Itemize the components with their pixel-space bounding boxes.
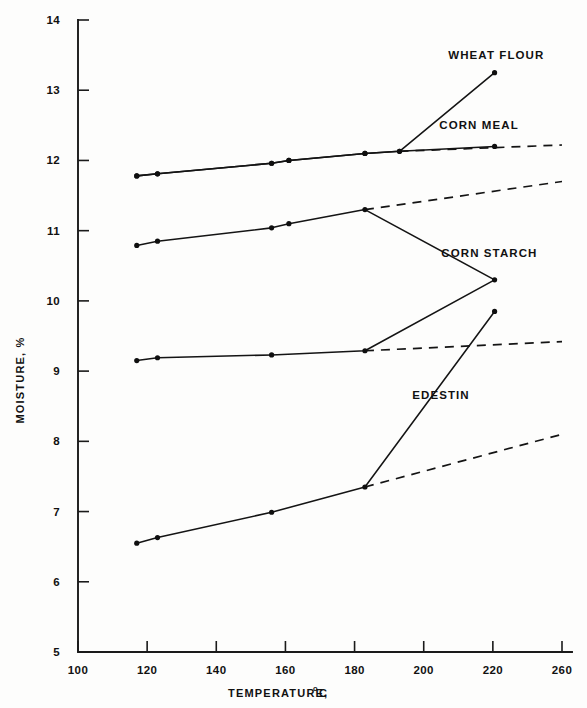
x-axis-tick-label: 220 [483, 664, 503, 676]
x-axis-tick-label: 260 [552, 664, 572, 676]
data-point-marker [155, 239, 160, 244]
series-label: CORN STARCH [441, 247, 537, 259]
data-point-marker [155, 171, 160, 176]
y-axis-tick-label: 11 [47, 225, 60, 237]
chart-series-lines [137, 73, 562, 543]
x-axis-tick-label: 140 [206, 664, 226, 676]
y-axis-tick-label: 9 [53, 365, 60, 377]
x-axis-title-degree-icon: o [313, 684, 318, 693]
data-point-marker [269, 352, 274, 357]
chart-axes [78, 20, 572, 652]
series-line-solid [137, 280, 495, 361]
series-line-dashed [365, 434, 562, 487]
data-point-marker [155, 355, 160, 360]
x-axis-tick-label: 200 [414, 664, 434, 676]
data-point-marker [492, 70, 497, 75]
x-axis-title: TEMPERATURE, o C [228, 684, 328, 699]
data-point-marker [362, 348, 367, 353]
chart-ticks [78, 20, 562, 652]
chart-figure: 567891011121314 100120140160180200220260… [0, 0, 587, 708]
x-axis-title-unit-text: C [319, 687, 328, 699]
x-axis-tick-labels: 100120140160180200220260 [68, 664, 572, 676]
data-point-marker [492, 144, 497, 149]
data-point-marker [134, 541, 139, 546]
series-line-dashed [400, 145, 562, 151]
y-axis-tick-label: 13 [46, 84, 60, 96]
data-point-marker [492, 277, 497, 282]
data-point-marker [134, 358, 139, 363]
y-axis-tick-label: 14 [46, 14, 60, 26]
data-point-marker [362, 151, 367, 156]
data-point-marker [362, 484, 367, 489]
data-point-marker [362, 207, 367, 212]
data-point-marker [269, 225, 274, 230]
y-axis-tick-label: 10 [46, 295, 60, 307]
series-label: CORN MEAL [439, 119, 519, 131]
y-axis-tick-label: 7 [53, 506, 60, 518]
y-axis-tick-label: 5 [53, 646, 60, 658]
x-axis-tick-label: 100 [68, 664, 88, 676]
axis-spines [78, 20, 572, 652]
series-line-solid [137, 210, 495, 280]
x-axis-tick-label: 180 [344, 664, 364, 676]
series-label: EDESTIN [412, 389, 470, 401]
y-axis-tick-labels: 567891011121314 [46, 14, 60, 658]
data-point-marker [492, 309, 497, 314]
data-point-marker [134, 173, 139, 178]
x-axis-tick-label: 160 [275, 664, 295, 676]
series-label: WHEAT FLOUR [448, 49, 544, 61]
data-point-marker [397, 149, 402, 154]
data-point-marker [286, 158, 291, 163]
y-axis-tick-label: 12 [46, 154, 60, 166]
data-point-marker [286, 221, 291, 226]
data-point-marker [134, 243, 139, 248]
data-point-marker [155, 535, 160, 540]
y-axis-tick-label: 6 [53, 576, 60, 588]
y-axis-title: MOISTURE, % [14, 336, 26, 423]
series-line-solid [137, 146, 495, 175]
data-point-marker [269, 510, 274, 515]
series-line-dashed [365, 182, 562, 210]
data-point-marker [269, 161, 274, 166]
x-axis-tick-label: 120 [137, 664, 157, 676]
y-axis-tick-label: 8 [53, 435, 60, 447]
series-line-solid [137, 311, 495, 543]
series-line-dashed [365, 342, 562, 351]
moisture-temperature-line-chart: 567891011121314 100120140160180200220260… [0, 0, 587, 708]
